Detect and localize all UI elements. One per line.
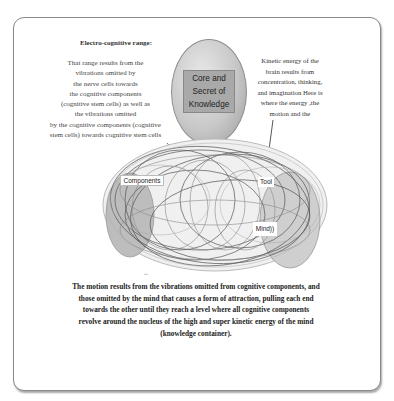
- components-label: Components: [120, 175, 164, 186]
- caption-line: (knowledge container).: [30, 328, 362, 340]
- core-knowledge-label: Core and Secret of Knowledge: [183, 70, 235, 113]
- caption-line: The motion results from the vibrations o…: [30, 281, 362, 293]
- swirl-orbits-graphic: [100, 130, 330, 275]
- caption-line: those omitted by the mind that causes a …: [30, 293, 362, 305]
- caption-line: revolve around the nucleus of the high a…: [30, 316, 362, 328]
- caption: The motion results from the vibrations o…: [30, 281, 362, 340]
- tool-label: Tool: [258, 177, 274, 187]
- caption-line: towards the other until they reach a lev…: [30, 304, 362, 316]
- mind-label: Mind)): [253, 222, 277, 236]
